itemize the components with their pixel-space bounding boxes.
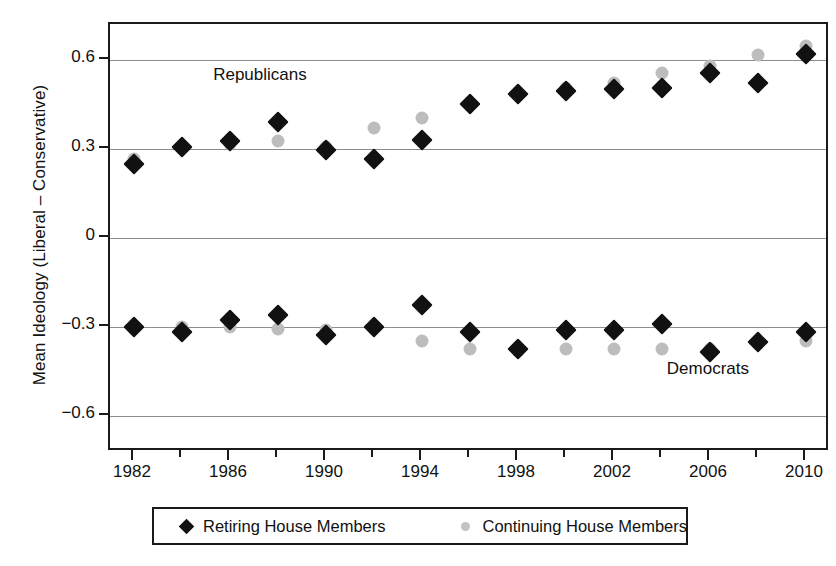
data-point-retiring-democrats-2000: [555, 320, 576, 341]
x-tick-mark-minor: [755, 450, 757, 457]
data-point-retiring-democrats-1996: [459, 321, 480, 342]
data-point-continuing-democrats-2002: [608, 343, 621, 356]
y-tick-label-wrap: −0.6: [0, 403, 95, 423]
x-tick-label-1998: 1998: [481, 462, 551, 482]
annotation-republicans: Republicans: [213, 65, 307, 85]
y-tick-label-0: 0: [51, 225, 95, 245]
y-tick-label-wrap: 0.6: [0, 47, 95, 67]
x-tick-label-2010: 2010: [769, 462, 836, 482]
data-point-retiring-republicans-2004: [651, 77, 672, 98]
x-tick-mark-major: [227, 450, 229, 460]
x-tick-mark-minor: [563, 450, 565, 457]
data-point-retiring-republicans-1982: [123, 153, 144, 174]
data-point-continuing-republicans-1994: [416, 111, 429, 124]
x-tick-label-1990: 1990: [289, 462, 359, 482]
x-tick-label-2002: 2002: [577, 462, 647, 482]
x-tick-mark-major: [515, 450, 517, 460]
plot-area: RepublicansDemocrats: [108, 22, 828, 450]
y-tick-label-wrap: 0.3: [0, 136, 95, 156]
x-tick-mark-major: [419, 450, 421, 460]
data-point-retiring-democrats-1984: [171, 321, 192, 342]
diamond-marker-icon: [178, 521, 194, 532]
y-tick-label-0.3: 0.3: [51, 136, 95, 156]
x-tick-mark-major: [803, 450, 805, 460]
legend-label-continuing: Continuing House Members: [482, 517, 687, 536]
data-point-retiring-democrats-1994: [411, 294, 432, 315]
data-point-retiring-republicans-2000: [555, 80, 576, 101]
gridline-y-0.3: [110, 149, 826, 150]
data-point-retiring-democrats-2008: [747, 331, 768, 352]
x-tick-mark-minor: [659, 450, 661, 457]
x-tick-mark-minor: [467, 450, 469, 457]
chart-figure: Mean Ideology (Liberal – Conservative) 0…: [0, 0, 836, 566]
y-tick-label-wrap: −0.3: [0, 314, 95, 334]
data-point-retiring-democrats-1992: [363, 317, 384, 338]
data-point-continuing-republicans-2008: [752, 49, 765, 62]
data-point-continuing-republicans-1992: [368, 122, 381, 135]
x-tick-label-1982: 1982: [97, 462, 167, 482]
chart-legend: Retiring House Members Continuing House …: [152, 507, 688, 545]
x-tick-mark-minor: [179, 450, 181, 457]
gridline-y--0.6: [110, 416, 826, 417]
data-point-continuing-democrats-2004: [656, 343, 669, 356]
data-point-retiring-republicans-1990: [315, 140, 336, 161]
x-tick-label-2006: 2006: [673, 462, 743, 482]
data-point-continuing-democrats-1994: [416, 334, 429, 347]
data-point-retiring-democrats-2004: [651, 314, 672, 335]
y-tick-label-wrap: 0: [0, 225, 95, 245]
x-tick-label-1986: 1986: [193, 462, 263, 482]
data-point-continuing-democrats-1996: [464, 343, 477, 356]
annotation-democrats: Democrats: [667, 359, 749, 379]
x-tick-mark-major: [323, 450, 325, 460]
data-point-retiring-republicans-1998: [507, 83, 528, 104]
y-tick-label-0.6: 0.6: [51, 47, 95, 67]
y-tick-label--0.3: −0.3: [51, 314, 95, 334]
circle-marker-icon: [457, 522, 473, 531]
data-point-retiring-republicans-2008: [747, 73, 768, 94]
data-point-retiring-republicans-1988: [267, 111, 288, 132]
x-tick-mark-major: [131, 450, 133, 460]
data-point-retiring-democrats-1998: [507, 339, 528, 360]
data-point-retiring-democrats-2002: [603, 320, 624, 341]
data-point-continuing-republicans-1988: [272, 135, 285, 148]
x-tick-label-1994: 1994: [385, 462, 455, 482]
data-point-continuing-democrats-2000: [560, 343, 573, 356]
x-tick-mark-major: [707, 450, 709, 460]
legend-label-retiring: Retiring House Members: [203, 517, 385, 536]
data-point-retiring-republicans-1994: [411, 129, 432, 150]
x-tick-mark-minor: [275, 450, 277, 457]
data-point-retiring-republicans-1984: [171, 137, 192, 158]
legend-item-continuing[interactable]: Continuing House Members: [457, 517, 687, 536]
x-tick-mark-major: [611, 450, 613, 460]
data-point-retiring-democrats-1982: [123, 317, 144, 338]
data-point-retiring-democrats-1988: [267, 305, 288, 326]
gridline-y-0.6: [110, 60, 826, 61]
data-point-retiring-republicans-1992: [363, 149, 384, 170]
legend-item-retiring[interactable]: Retiring House Members: [178, 517, 385, 536]
y-tick-label--0.6: −0.6: [51, 403, 95, 423]
data-point-retiring-republicans-1996: [459, 94, 480, 115]
gridline-y-0: [110, 238, 826, 239]
x-tick-mark-minor: [371, 450, 373, 457]
